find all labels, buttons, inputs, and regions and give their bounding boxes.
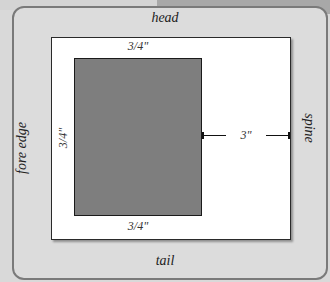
fore-edge-label: fore edge bbox=[14, 122, 30, 174]
dimension-cap-right-icon bbox=[288, 132, 290, 139]
head-label: head bbox=[0, 10, 330, 26]
spine-label: spine bbox=[301, 113, 317, 143]
bottom-margin-label: 3/4" bbox=[74, 219, 202, 234]
left-margin-label: 3/4" bbox=[56, 128, 71, 148]
right-margin-label: 3" bbox=[226, 128, 266, 143]
text-block bbox=[74, 58, 202, 216]
top-margin-label: 3/4" bbox=[74, 39, 202, 54]
dimension-cap-left-icon bbox=[202, 132, 204, 139]
tail-label: tail bbox=[0, 253, 330, 269]
